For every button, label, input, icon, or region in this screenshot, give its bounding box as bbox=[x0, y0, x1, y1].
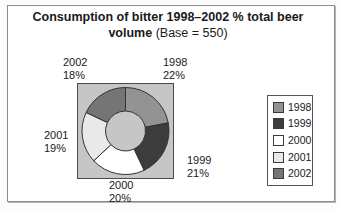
slice-label-1999: 1999 21% bbox=[187, 154, 211, 180]
legend-label: 2000 bbox=[288, 135, 311, 146]
donut-slice-1998 bbox=[126, 88, 169, 128]
chart-title: Consumption of bitter 1998–2002 % total … bbox=[8, 9, 328, 41]
chart-title-line2: volume (Base = 550) bbox=[8, 25, 328, 41]
legend-label: 1999 bbox=[288, 118, 311, 129]
legend-swatch-2001 bbox=[273, 152, 284, 163]
slice-label-2001: 2001 19% bbox=[44, 129, 68, 155]
legend-label: 2002 bbox=[288, 168, 311, 179]
slice-label-1998: 1998 22% bbox=[163, 56, 187, 82]
legend-label: 1998 bbox=[288, 102, 311, 113]
legend-swatch-2002 bbox=[273, 168, 284, 179]
donut-plot-area bbox=[77, 83, 174, 179]
legend-item-2000: 2000 bbox=[273, 135, 312, 146]
legend-swatch-1998 bbox=[273, 102, 284, 113]
legend-swatch-2000 bbox=[273, 135, 284, 146]
legend-label: 2001 bbox=[288, 152, 311, 163]
slice-label-2000: 2000 20% bbox=[109, 179, 133, 205]
legend-item-2001: 2001 bbox=[273, 152, 312, 163]
chart-legend: 19981999200020012002 bbox=[267, 95, 313, 186]
chart-figure: Consumption of bitter 1998–2002 % total … bbox=[0, 0, 339, 210]
chart-title-line1: Consumption of bitter 1998–2002 % total … bbox=[8, 9, 328, 25]
legend-item-1998: 1998 bbox=[273, 102, 312, 113]
legend-item-1999: 1999 bbox=[273, 118, 312, 129]
donut-chart bbox=[78, 84, 173, 178]
slice-label-2002: 2002 18% bbox=[63, 56, 87, 82]
legend-item-2002: 2002 bbox=[273, 168, 312, 179]
legend-swatch-1999 bbox=[273, 118, 284, 129]
